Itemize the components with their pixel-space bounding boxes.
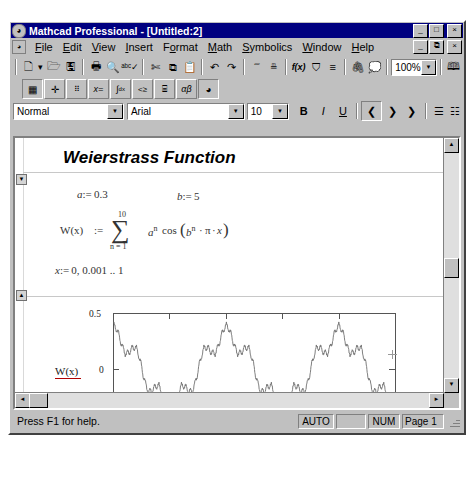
assign-operator-a: := (83, 188, 92, 200)
graph-palette-icon[interactable]: ✛ (44, 79, 65, 99)
document-icon[interactable]: ◕ (12, 40, 26, 54)
status-page: Page 1 (402, 414, 444, 429)
align-down-icon[interactable]: ≞ (265, 58, 282, 77)
menu-format[interactable]: Format (158, 40, 203, 54)
calculator-palette-icon[interactable]: ▦ (22, 79, 43, 99)
range-definition[interactable]: x:= 0, 0.001 .. 1 (55, 264, 124, 276)
insert-hyperlink-icon[interactable]: 🖇 (349, 58, 366, 77)
insert-function-icon[interactable]: f(x) (290, 58, 307, 77)
scroll-down-button[interactable]: ▼ (444, 378, 459, 393)
style-combobox[interactable]: Normal ▼ (13, 103, 124, 120)
document-area: Weierstrass Function ▼ a:= 0.3 b:= 5 W(x… (13, 136, 461, 410)
menu-edit[interactable]: Edit (58, 40, 87, 54)
menu-file[interactable]: FFileile (30, 40, 58, 54)
zoom-dropdown-arrow[interactable]: ▼ (421, 60, 436, 75)
sum-lower-limit: n = 1 (110, 242, 127, 251)
region-separator-top (23, 172, 444, 173)
horizontal-scroll-thumb[interactable] (29, 393, 48, 408)
check-spelling-icon[interactable]: ᵃᵇᶜ✓ (121, 58, 139, 77)
region-collapse-marker-bottom[interactable]: ▲ (16, 290, 27, 301)
bold-button[interactable]: B (294, 102, 314, 120)
scroll-right-button[interactable]: ► (429, 393, 444, 408)
paren-close: ) (223, 220, 229, 240)
boolean-palette-icon[interactable]: <≥ (132, 79, 153, 99)
align-right-button[interactable]: ❯ (402, 102, 422, 120)
font-combobox[interactable]: Arial ▼ (127, 103, 245, 120)
window-controls: _ □ × (413, 24, 462, 38)
menu-view[interactable]: View (87, 40, 121, 54)
evaluation-palette-icon[interactable]: x= (88, 79, 109, 99)
xy-plot-region[interactable]: W(x) 0.5 0 -0.5 (55, 313, 415, 393)
new-document-icon[interactable]: 🗋 (20, 58, 37, 77)
matrix-palette-icon[interactable]: ⠿ (66, 79, 87, 99)
programming-palette-icon[interactable]: ⌸ (154, 79, 175, 99)
print-preview-icon[interactable]: 🔍 (104, 58, 121, 77)
value-b: 5 (194, 190, 200, 202)
pi-symbol: π (205, 224, 211, 236)
font-dropdown-arrow[interactable]: ▼ (228, 104, 244, 119)
paren-open: ( (180, 220, 186, 240)
copy-icon[interactable]: ⧉ (164, 58, 181, 77)
new-dropdown-icon[interactable]: ▾ (37, 58, 45, 77)
window-title: Mathcad Professional - [Untitled:2] (29, 25, 413, 37)
vertical-scrollbar[interactable]: ▲ ▼ (443, 138, 459, 393)
doc-close-button[interactable]: × (447, 40, 462, 54)
definition-a[interactable]: a:= 0.3 (77, 188, 108, 200)
cos-operator: cos (162, 224, 177, 236)
italic-button[interactable]: I (314, 102, 334, 120)
zoom-combobox[interactable]: 100% ▼ (391, 59, 437, 76)
align-center-button[interactable]: ❯ (382, 102, 402, 120)
maximize-button[interactable]: □ (429, 24, 444, 38)
menu-window[interactable]: Window (297, 40, 346, 54)
undo-icon[interactable]: ↶ (206, 58, 223, 77)
context-help-icon[interactable]: 🕮 (445, 58, 462, 77)
insert-unit-icon[interactable]: ⛉ (307, 58, 324, 77)
term-a: an (148, 224, 158, 238)
mathcad-main-window: ◕ Mathcad Professional - [Untitled:2] _ … (8, 20, 466, 435)
standard-toolbar: 🗋 ▾ 🗁 🖫 🖶 🔍 ᵃᵇᶜ✓ ✄ ⧉ 📋 ↶ ↷ ⁗ ≞ f(x) ⛉ ≡ … (10, 56, 464, 78)
save-document-icon[interactable]: 🖫 (62, 58, 79, 77)
menu-symbolics[interactable]: Symbolics (237, 40, 297, 54)
definition-b[interactable]: b:= 5 (177, 190, 199, 202)
horizontal-scrollbar[interactable]: ◄ ► (15, 392, 444, 408)
style-dropdown-arrow[interactable]: ▼ (107, 104, 123, 119)
weierstrass-definition[interactable]: W(x) := 10 ∑ n = 1 an cos ( bn · π · x ) (60, 210, 270, 254)
calculate-icon[interactable]: ≡ (324, 58, 341, 77)
worksheet-page[interactable]: Weierstrass Function ▼ a:= 0.3 b:= 5 W(x… (15, 138, 444, 393)
function-lhs: W(x) (60, 224, 83, 236)
status-auto: AUTO (298, 414, 334, 429)
font-size-dropdown-arrow[interactable]: ▼ (272, 104, 288, 119)
open-document-icon[interactable]: 🗁 (45, 58, 62, 77)
doc-minimize-button[interactable]: _ (413, 40, 428, 54)
greek-palette-icon[interactable]: αβ (176, 79, 197, 99)
scroll-left-button[interactable]: ◄ (15, 393, 30, 408)
symbolic-palette-icon[interactable]: ◕ (198, 79, 219, 99)
vertical-scroll-thumb[interactable] (444, 258, 459, 278)
menu-insert[interactable]: Insert (120, 40, 158, 54)
close-button[interactable]: × (447, 24, 462, 38)
print-icon[interactable]: 🖶 (87, 58, 104, 77)
scroll-up-button[interactable]: ▲ (444, 138, 459, 153)
redo-icon[interactable]: ↷ (223, 58, 240, 77)
font-size-combobox[interactable]: 10 ▼ (247, 103, 289, 120)
resource-center-icon[interactable]: 💭 (366, 58, 383, 77)
number-list-button[interactable]: ☷ (449, 102, 461, 120)
calculus-palette-icon[interactable]: ∫dx (110, 79, 131, 99)
cut-icon[interactable]: ✄ (147, 58, 164, 77)
align-across-icon[interactable]: ⁗ (248, 58, 265, 77)
math-toolbar: ▦ ✛ ⠿ x= ∫dx <≥ ⌸ αβ ◕ (10, 78, 464, 100)
menu-help[interactable]: Help (347, 40, 380, 54)
doc-restore-button[interactable]: ⧉ (429, 40, 444, 54)
underline-button[interactable]: U (333, 102, 353, 120)
paste-icon[interactable]: 📋 (181, 58, 198, 77)
zoom-value: 100% (395, 62, 421, 73)
resize-grip[interactable] (447, 415, 461, 429)
align-left-button[interactable]: ❮ (361, 101, 383, 121)
region-separator-bottom (23, 296, 444, 297)
bullet-list-button[interactable]: ☰ (430, 102, 450, 120)
summation-sigma: ∑ (111, 217, 130, 243)
minimize-button[interactable]: _ (413, 24, 428, 38)
region-collapse-marker-top[interactable]: ▼ (16, 174, 27, 185)
term-b: bn (186, 224, 196, 238)
menu-math[interactable]: Math (203, 40, 237, 54)
